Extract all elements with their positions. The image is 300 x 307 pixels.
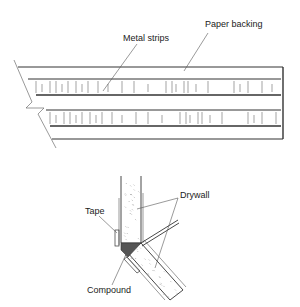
gypsum-speckle <box>148 273 149 274</box>
strip-1-perforations <box>36 81 272 93</box>
paper-backing-leader <box>184 33 208 71</box>
tape-strip-angled <box>124 257 140 273</box>
gypsum-speckle <box>125 193 126 194</box>
gypsum-speckle <box>154 270 155 271</box>
corner-joint-illustration: Tape Drywall Compound <box>85 176 210 300</box>
paper-backing-label: Paper backing <box>205 19 263 29</box>
gypsum-speckle <box>135 219 136 220</box>
gypsum-speckle <box>161 283 162 284</box>
gypsum-speckle <box>125 207 126 208</box>
strip-2-perforations <box>50 112 276 124</box>
gypsum-speckle <box>138 238 139 239</box>
flange-upper-line-2 <box>142 223 179 246</box>
gypsum-speckle <box>140 248 141 249</box>
break-line <box>14 60 56 148</box>
gypsum-speckle <box>159 284 160 285</box>
compound-label: Compound <box>87 285 131 295</box>
angled-board-paper-upper <box>144 240 186 287</box>
gypsum-speckle <box>130 185 131 186</box>
gypsum-speckle <box>138 191 139 192</box>
corner-tape-illustration: Metal strips Paper backing <box>14 19 283 148</box>
gypsum-speckle <box>125 195 126 196</box>
gypsum-speckle <box>170 281 171 282</box>
tape-label: Tape <box>85 206 105 216</box>
gypsum-speckle <box>124 236 125 237</box>
diagram-canvas: Metal strips Paper backing Tape Drywall … <box>0 0 300 307</box>
gypsum-speckle <box>149 260 150 261</box>
gypsum-speckle <box>132 209 133 210</box>
gypsum-speckle <box>164 271 165 272</box>
gypsum-speckle <box>127 233 128 234</box>
gypsum-speckle <box>175 290 176 291</box>
tape-strip-vertical <box>115 230 119 246</box>
gypsum-speckle <box>126 239 127 240</box>
gypsum-speckle <box>134 197 135 198</box>
flange-upper-line-1 <box>141 220 178 243</box>
gypsum-speckle <box>177 293 178 294</box>
gypsum-speckle <box>130 213 131 214</box>
gypsum-speckle <box>150 263 151 264</box>
gypsum-speckle <box>142 265 143 266</box>
gypsum-speckle <box>163 286 164 287</box>
gypsum-speckle <box>126 183 127 184</box>
metal-strips-label: Metal strips <box>123 33 170 43</box>
compound-fill <box>121 243 141 257</box>
tape-leader <box>99 216 117 233</box>
gypsum-speckle <box>145 259 146 260</box>
gypsum-speckle <box>125 226 126 227</box>
gypsum-speckle <box>136 249 137 250</box>
gypsum-speckle <box>152 270 153 271</box>
gypsum-speckle <box>135 258 136 259</box>
gypsum-speckle <box>129 201 130 202</box>
gypsum-speckle <box>134 189 135 190</box>
drywall-label: Drywall <box>180 190 210 200</box>
gypsum-speckle <box>130 210 131 211</box>
gypsum-speckle <box>131 258 132 259</box>
gypsum-speckle <box>131 214 132 215</box>
drywall-leader-2 <box>155 198 178 268</box>
gypsum-speckle <box>134 185 135 186</box>
gypsum-speckle <box>124 233 125 234</box>
gypsum-speckle <box>137 251 138 252</box>
compound-leader <box>112 250 128 285</box>
gypsum-speckle <box>132 200 133 201</box>
gypsum-speckle <box>161 285 162 286</box>
gypsum-speckle <box>128 227 129 228</box>
